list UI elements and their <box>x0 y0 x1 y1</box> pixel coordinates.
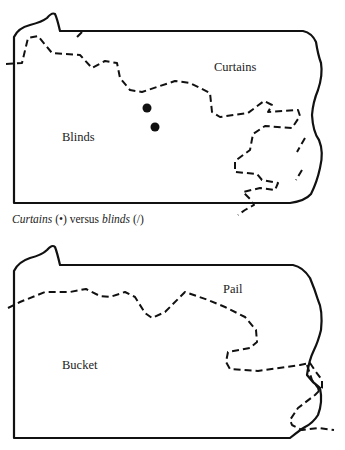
map-curtains-blinds-svg <box>0 0 345 225</box>
caption-dot-symbol: (•) <box>55 213 67 225</box>
label-blinds: Blinds <box>62 130 95 145</box>
label-curtains: Curtains <box>214 60 256 75</box>
curtains-dot-marker <box>151 123 160 132</box>
state-outline <box>14 246 322 438</box>
label-pail: Pail <box>223 282 242 297</box>
state-outline <box>14 14 322 204</box>
figure-caption: Curtains (•) versus blinds (/) <box>12 213 144 225</box>
caption-slash-symbol: (/) <box>133 213 144 225</box>
caption-term-blinds: blinds <box>102 213 130 225</box>
caption-versus: versus <box>70 213 99 225</box>
isogloss-pail-bucket <box>8 289 334 430</box>
map-pail-bucket-svg <box>0 230 345 450</box>
map-curtains-blinds: Curtains Blinds <box>0 0 345 225</box>
isogloss-tick <box>75 32 82 39</box>
isogloss-secondary <box>307 365 320 395</box>
slash-mark <box>297 138 305 152</box>
curtains-dot-marker <box>143 104 152 113</box>
label-bucket: Bucket <box>62 358 97 373</box>
map-pail-bucket: Pail Bucket <box>0 230 345 450</box>
slash-mark <box>296 170 302 180</box>
caption-term-curtains: Curtains <box>12 213 52 225</box>
